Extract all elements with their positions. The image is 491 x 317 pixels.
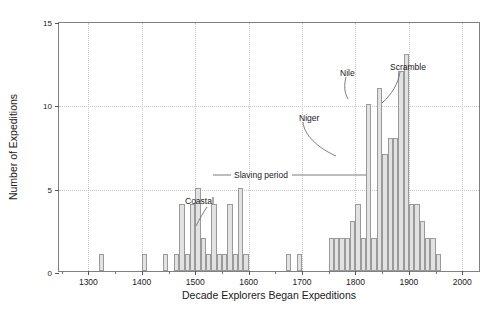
bar-1320 (99, 254, 104, 271)
x-tick-mark (88, 271, 89, 275)
x-tick-mark-minor (115, 271, 116, 274)
x-tick-mark-minor (169, 271, 170, 274)
x-axis-label-text: Decade Explorers Began Expeditions (182, 289, 356, 301)
x-tick-label: 1400 (132, 277, 151, 287)
histogram-figure: Number of Expeditions 051015 13001400150… (0, 0, 491, 317)
bar-1400 (142, 254, 147, 271)
x-tick-label: 1500 (186, 277, 205, 287)
x-tick-label: 1700 (293, 277, 312, 287)
x-tick-mark (195, 271, 196, 275)
bar-1950 (436, 254, 441, 271)
annotation-coastal: Coastal (185, 196, 214, 206)
x-tick-mark (355, 271, 356, 275)
plot-area: 051015 13001400150016001700180019002000 (58, 22, 480, 272)
y-tick-mark (55, 190, 59, 191)
x-tick-mark-minor (62, 271, 63, 274)
y-axis-label: Number of Expeditions (6, 22, 20, 272)
x-axis-label: Decade Explorers Began Expeditions (58, 289, 480, 301)
x-tick-mark-minor (275, 271, 276, 274)
y-tick-label: 10 (43, 102, 52, 111)
y-tick-label: 5 (48, 185, 52, 194)
y-tick-mark (55, 273, 59, 274)
x-tick-label: 1300 (79, 277, 98, 287)
x-tick-label: 1900 (399, 277, 418, 287)
y-axis-label-text: Number of Expeditions (7, 94, 19, 200)
x-tick-label: 1600 (239, 277, 258, 287)
annotation-scramble: Scramble (390, 62, 426, 72)
annotation-nile: Nile (340, 68, 355, 78)
annotation-niger: Niger (299, 113, 319, 123)
x-tick-mark (409, 271, 410, 275)
x-tick-mark-minor (222, 271, 223, 274)
x-tick-mark (142, 271, 143, 275)
x-tick-mark-minor (436, 271, 437, 274)
bar-1690 (297, 254, 302, 271)
bar-1440 (163, 254, 168, 271)
y-tick-mark (55, 23, 59, 24)
y-tick-mark (55, 106, 59, 107)
bar-1590 (243, 254, 248, 271)
y-tick-label: 0 (48, 269, 52, 278)
y-tick-label: 15 (43, 19, 52, 28)
x-tick-mark (249, 271, 250, 275)
x-tick-mark-minor (329, 271, 330, 274)
x-tick-label: 2000 (453, 277, 472, 287)
bar-1670 (286, 254, 291, 271)
histogram-bars (59, 23, 479, 271)
x-tick-mark (302, 271, 303, 275)
x-tick-mark-minor (382, 271, 383, 274)
annotation-slaving-period: Slaving period (234, 170, 288, 180)
x-tick-label: 1800 (346, 277, 365, 287)
x-tick-mark (462, 271, 463, 275)
